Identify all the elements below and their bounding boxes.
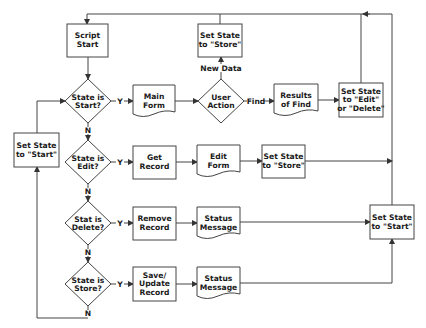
label-no: N <box>85 126 91 135</box>
svg-text:Set State: Set State <box>264 152 304 161</box>
svg-text:Main: Main <box>144 92 165 101</box>
node-decision-user-action: User Action <box>198 79 244 123</box>
label-find: Find <box>247 97 266 106</box>
edge-setstart-left-to-dec <box>37 101 65 133</box>
svg-text:Record: Record <box>140 223 170 232</box>
svg-text:Set State: Set State <box>17 141 57 150</box>
node-set-edit-delete: Set State to "Edit" or "Delete" <box>337 83 385 117</box>
label-no: N <box>85 187 91 196</box>
svg-text:Edit?: Edit? <box>77 162 98 171</box>
label-no: N <box>85 248 91 257</box>
node-status-message-1: Status Message <box>197 207 240 239</box>
label-yes: Y <box>116 97 123 106</box>
svg-text:Get: Get <box>147 153 162 162</box>
label-yes: Y <box>116 219 123 228</box>
svg-text:to "Store": to "Store" <box>199 40 242 49</box>
edge-status2-setstart <box>240 239 392 283</box>
svg-text:Set State: Set State <box>372 213 412 222</box>
svg-text:Form: Form <box>208 161 230 170</box>
label-no: N <box>85 309 91 318</box>
svg-text:Form: Form <box>143 101 165 110</box>
svg-text:Set State: Set State <box>200 31 240 40</box>
flowchart: Y Y Y Y N N N N New Data Find Script Sta… <box>0 0 426 328</box>
svg-text:Edit: Edit <box>210 152 227 161</box>
node-edit-form: Edit Form <box>197 145 240 177</box>
label-yes: Y <box>116 158 123 167</box>
node-set-store-mid: Set State to "Store" <box>262 145 305 178</box>
svg-text:Status: Status <box>205 274 233 283</box>
node-get-record: Get Record <box>133 146 176 179</box>
svg-text:to "Start": to "Start" <box>371 222 412 231</box>
node-set-start-right: Set State to "Start" <box>370 205 414 239</box>
svg-text:Update: Update <box>139 279 170 288</box>
node-status-message-2: Status Message <box>197 267 240 299</box>
svg-text:Script: Script <box>75 31 101 40</box>
label-yes: Y <box>116 280 123 289</box>
node-results-of-find: Results of Find <box>274 84 318 116</box>
edge-top-loop <box>87 14 392 24</box>
node-decision-store: State is Store? <box>65 262 111 306</box>
svg-text:Message: Message <box>200 283 237 292</box>
node-set-start-left: Set State to "Start" <box>14 133 59 167</box>
node-script-start: Script Start <box>67 24 108 57</box>
svg-text:Record: Record <box>140 162 170 171</box>
svg-text:Start: Start <box>77 40 99 49</box>
svg-text:to "Start": to "Start" <box>16 150 57 159</box>
svg-text:Results: Results <box>280 91 312 100</box>
svg-text:Start?: Start? <box>75 101 101 110</box>
label-new-data: New Data <box>200 64 241 73</box>
svg-text:of Find: of Find <box>281 100 311 109</box>
node-decision-start: State is Start? <box>65 79 111 123</box>
node-remove-record: Remove Record <box>133 207 176 240</box>
svg-text:to "Edit": to "Edit" <box>343 95 379 104</box>
svg-text:or "Delete": or "Delete" <box>337 104 385 113</box>
svg-text:Record: Record <box>140 288 170 297</box>
svg-text:Status: Status <box>205 214 233 223</box>
svg-text:Store?: Store? <box>74 284 102 293</box>
node-decision-edit: State is Edit? <box>65 140 111 184</box>
node-main-form: Main Form <box>133 85 175 117</box>
svg-text:Action: Action <box>207 101 234 110</box>
svg-text:Delete?: Delete? <box>72 223 104 232</box>
node-save-update-record: Save/ Update Record <box>133 267 176 301</box>
svg-text:to "Store": to "Store" <box>262 161 305 170</box>
node-decision-delete: Stat is Delete? <box>65 201 111 245</box>
svg-text:Remove: Remove <box>137 214 171 223</box>
svg-text:Message: Message <box>200 223 237 232</box>
node-set-store-top: Set State to "Store" <box>198 24 242 57</box>
